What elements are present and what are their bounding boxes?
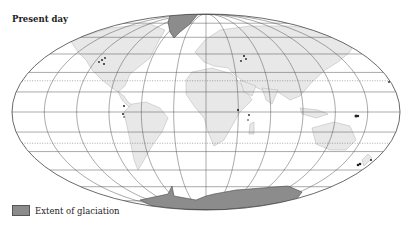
- legend-label: Extent of glaciation: [35, 206, 120, 216]
- legend: Extent of glaciation: [12, 205, 120, 216]
- world-map: [0, 0, 402, 225]
- glaciation-swatch: [12, 205, 30, 216]
- map-figure: Present day Extent of glaciation: [0, 0, 402, 225]
- map-title: Present day: [12, 14, 68, 24]
